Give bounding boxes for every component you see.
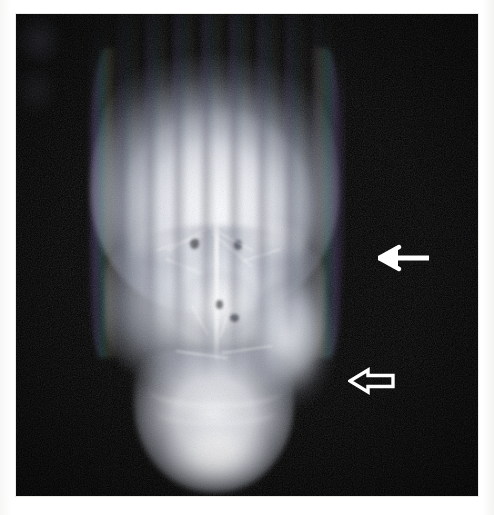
dental-arch: [156, 396, 276, 425]
maxillary-sinus-right: [16, 14, 62, 66]
solid-arrow-icon: [379, 247, 429, 269]
radiograph-figure: [0, 0, 494, 515]
maxillary-sinus-left: [16, 66, 56, 114]
hollow-arrow-annotation[interactable]: [348, 365, 396, 397]
hollow-arrow-icon: [350, 370, 393, 392]
solid-arrow-annotation[interactable]: [378, 243, 430, 273]
radiograph-image-panel[interactable]: [16, 14, 478, 496]
foramen-mid-left: [216, 300, 223, 309]
foramen-mid-right: [230, 314, 239, 322]
chin-highlight: [164, 418, 268, 492]
